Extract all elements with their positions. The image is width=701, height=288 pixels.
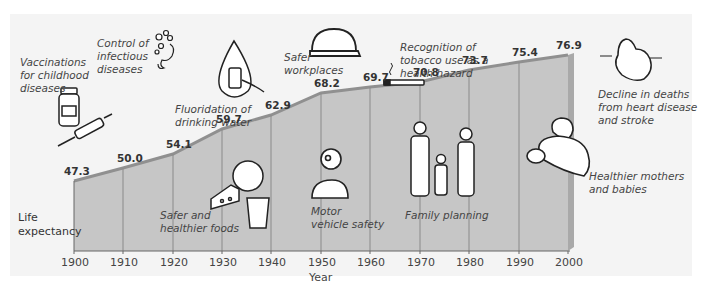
x-tick-1990: 1990	[506, 256, 534, 269]
x-tick-1940: 1940	[258, 256, 286, 269]
x-tick-1920: 1920	[160, 256, 188, 269]
x-tick-1900: 1900	[61, 256, 89, 269]
x-tick-1910: 1910	[110, 256, 138, 269]
label-motor-vehicle: Motorvehicle safety	[311, 205, 384, 231]
value-label-1990: 75.4	[512, 46, 538, 58]
x-axis-label: Year	[309, 271, 332, 284]
label-infectious-disease: Control ofinfectiousdiseases	[97, 37, 149, 76]
label-mothers-babies: Healthier mothersand babies	[589, 170, 684, 196]
water-drop-hand-icon	[219, 41, 264, 97]
x-tick-1950: 1950	[308, 256, 336, 269]
x-tick-1930: 1930	[209, 256, 237, 269]
heart-icon	[600, 39, 662, 80]
value-label-1940: 62.9	[265, 99, 291, 111]
value-label-1900: 47.3	[64, 165, 90, 177]
label-safer-foods: Safer andhealthier foods	[160, 209, 239, 235]
x-tick-1970: 1970	[407, 256, 435, 269]
value-label-1910: 50.0	[117, 152, 143, 164]
x-tick-1980: 1980	[456, 256, 484, 269]
x-tick-1960: 1960	[357, 256, 385, 269]
x-tick-2000: 2000	[555, 256, 583, 269]
value-label-1980: 73.7	[462, 54, 488, 66]
plate-icon	[233, 161, 263, 191]
germs-icon	[155, 31, 174, 69]
label-family-planning: Family planning	[405, 209, 489, 222]
value-label-1970: 70.8	[413, 66, 439, 78]
label-heart-disease: Decline in deathsfrom heart diseaseand s…	[598, 88, 697, 127]
glass-of-milk-icon	[247, 198, 269, 228]
value-label-1930: 59.7	[216, 113, 242, 125]
y-axis-label: Lifeexpectancy	[18, 211, 81, 239]
label-safer-workplaces: Saferworkplaces	[284, 51, 343, 77]
value-label-2000: 76.9	[556, 39, 582, 51]
value-label-1960: 69.7	[363, 71, 389, 83]
value-label-1920: 54.1	[166, 138, 192, 150]
label-vaccinations: Vaccinationsfor childhooddiseases	[20, 56, 89, 95]
value-label-1950: 68.2	[314, 77, 340, 89]
